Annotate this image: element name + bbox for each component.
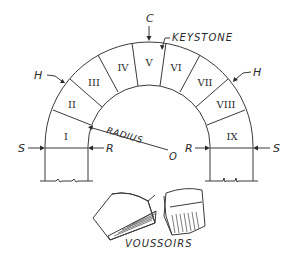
right-pier-base	[205, 178, 258, 182]
rise-left-label: R	[106, 142, 114, 155]
springing-right-arrow-head-icon	[253, 146, 258, 151]
center-label: O	[169, 151, 177, 162]
voussoir-II: II	[68, 99, 76, 110]
voussoir-VII: VII	[196, 77, 212, 88]
voussoir-I: I	[64, 131, 68, 142]
arch-diagram: I II III IV V VI VII VIII IX C KEYSTONE …	[0, 0, 297, 255]
springing-left-label: S	[18, 142, 25, 155]
left-pier-base	[40, 179, 93, 182]
crown-arrow-head-icon	[147, 36, 152, 41]
rise-right-arrow-head-icon	[205, 146, 210, 151]
springing-right-label: S	[273, 142, 280, 155]
keystone-label: KEYSTONE	[172, 32, 233, 43]
voussoir-V: V	[144, 57, 153, 68]
voussoir-VIII: VIII	[215, 99, 235, 110]
voussoir-block-right	[164, 189, 205, 235]
voussoirs-caption: VOUSSOIRS	[125, 238, 193, 249]
rise-right-label: R	[185, 142, 193, 155]
haunch-left-label: H	[34, 69, 42, 82]
voussoir-joints	[53, 43, 245, 125]
haunch-right-label: H	[253, 66, 261, 79]
crown-label: C	[146, 12, 154, 25]
haunch-left-arrow-head-icon	[60, 79, 65, 83]
rise-left-arrow-head-icon	[88, 146, 93, 151]
springing-left-arrow-head-icon	[40, 146, 45, 151]
voussoir-IV: IV	[117, 62, 129, 73]
voussoir-IX: IX	[226, 131, 238, 142]
keystone-arrow-head-icon	[160, 45, 165, 50]
voussoir-VI: VI	[169, 62, 181, 73]
haunch-right-arrow	[236, 72, 251, 79]
voussoir-block-left	[93, 193, 156, 240]
arch-intrados	[88, 85, 210, 146]
haunch-left-arrow	[47, 75, 63, 82]
voussoir-III: III	[88, 77, 100, 88]
